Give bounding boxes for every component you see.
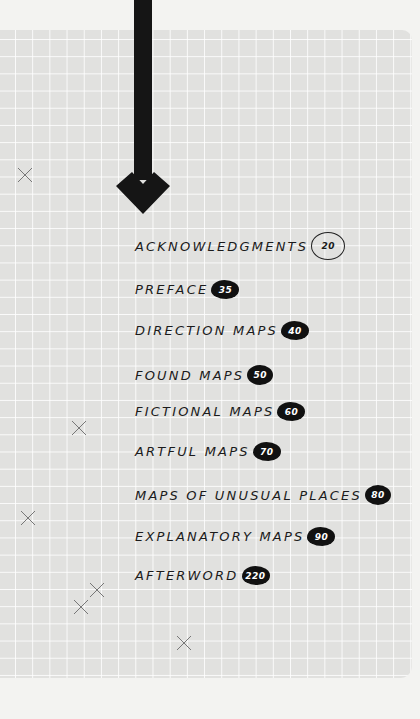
toc-item-preface[interactable]: Preface 35: [135, 280, 239, 299]
page-number-badge: 40: [281, 321, 309, 340]
toc-item-label: Found Maps: [135, 368, 244, 383]
page-number-badge: 80: [365, 485, 391, 505]
page-number-badge: 70: [253, 442, 281, 461]
toc-item-direction-maps[interactable]: Direction Maps 40: [135, 321, 309, 340]
toc-item-afterword[interactable]: Afterword 220: [135, 566, 270, 585]
x-mark-icon: [176, 635, 192, 651]
toc-item-artful-maps[interactable]: Artful Maps 70: [135, 442, 281, 461]
toc-item-label: Artful Maps: [135, 444, 250, 459]
page-number-badge: 60: [277, 402, 305, 421]
page-number-badge: 35: [211, 280, 239, 299]
x-mark-icon: [73, 599, 89, 615]
toc-item-label: Explanatory Maps: [135, 529, 304, 544]
page-number-badge: 20: [311, 232, 345, 260]
toc-item-label: Direction Maps: [135, 323, 278, 338]
x-mark-icon: [71, 420, 87, 436]
toc-item-label: Acknowledgments: [135, 239, 308, 254]
x-mark-icon: [17, 167, 33, 183]
page-number-badge: 90: [307, 527, 335, 546]
page-number-badge: 220: [242, 566, 270, 585]
page-number-badge: 50: [247, 365, 273, 385]
toc-item-found-maps[interactable]: Found Maps 50: [135, 365, 273, 385]
toc-item-fictional-maps[interactable]: Fictional Maps 60: [135, 402, 305, 421]
x-mark-icon: [20, 510, 36, 526]
toc-item-label: Maps of Unusual Places: [135, 488, 362, 503]
toc-item-label: Preface: [135, 282, 208, 297]
toc-item-label: Afterword: [135, 568, 239, 583]
toc-item-explanatory-maps[interactable]: Explanatory Maps 90: [135, 527, 335, 546]
toc-item-acknowledgments[interactable]: Acknowledgments 20: [135, 232, 345, 260]
x-mark-icon: [89, 582, 105, 598]
toc-item-maps-of-unusual-places[interactable]: Maps of Unusual Places 80: [135, 485, 391, 505]
toc-item-label: Fictional Maps: [135, 404, 274, 419]
